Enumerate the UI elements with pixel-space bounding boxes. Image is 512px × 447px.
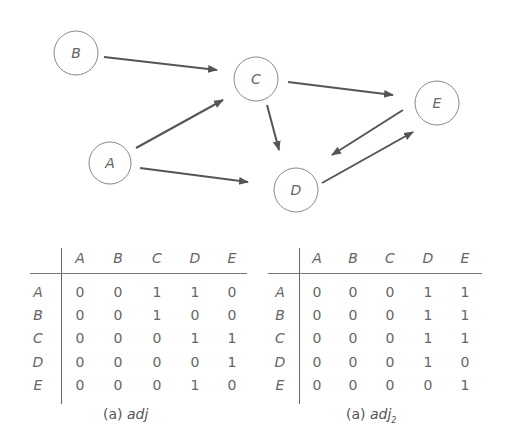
- node-d: D: [274, 168, 318, 212]
- node-label: A: [104, 155, 115, 171]
- row-header: B: [268, 306, 292, 324]
- row-header: C: [268, 329, 292, 347]
- matrix-cell: 0: [106, 376, 130, 394]
- row-header: D: [268, 353, 292, 371]
- matrix-vertical-divider: [299, 248, 300, 404]
- adjacency-matrix-adj: ABCDEA00110B00100C00011D00001E00010 (a) …: [0, 240, 256, 440]
- matrix-horizontal-divider: [30, 273, 247, 274]
- matrix-cell: 0: [220, 283, 244, 301]
- column-header: E: [220, 249, 244, 267]
- matrix-cell: 0: [341, 329, 365, 347]
- matrix-cell: 0: [341, 306, 365, 324]
- matrix-cell: 1: [220, 329, 244, 347]
- matrix-cell: 1: [416, 353, 440, 371]
- matrix-cell: 0: [305, 329, 329, 347]
- matrix-cell: 1: [145, 283, 169, 301]
- matrix-cell: 1: [416, 283, 440, 301]
- edge-b-to-c: [104, 57, 217, 70]
- matrix-cell: 0: [305, 376, 329, 394]
- matrix-cell: 0: [220, 376, 244, 394]
- matrix-cell: 0: [305, 353, 329, 371]
- caption-prefix: (a): [103, 406, 123, 422]
- matrix-cell: 0: [106, 306, 130, 324]
- node-e: E: [415, 81, 459, 125]
- caption-prefix: (a): [346, 406, 366, 422]
- matrix-cell: 0: [378, 376, 402, 394]
- adjacency-matrix-adj2: ABCDEA00011B00011C00011D00010E00001 (a) …: [256, 240, 512, 440]
- column-header: D: [416, 249, 440, 267]
- edge-a-to-c: [136, 100, 223, 148]
- matrix-cell: 0: [145, 329, 169, 347]
- column-header: D: [183, 249, 207, 267]
- matrix-cell: 1: [416, 329, 440, 347]
- matrix-cell: 1: [183, 329, 207, 347]
- matrix-cell: 0: [106, 283, 130, 301]
- matrix-cell: 0: [453, 353, 477, 371]
- node-a: A: [89, 142, 131, 184]
- matrix-cell: 0: [68, 353, 92, 371]
- matrix-cell: 1: [453, 376, 477, 394]
- row-header: A: [268, 283, 292, 301]
- matrix-cell: 1: [453, 329, 477, 347]
- matrix-cell: 1: [145, 306, 169, 324]
- node-label: E: [433, 95, 442, 111]
- row-header: D: [26, 353, 50, 371]
- matrix-cell: 0: [183, 306, 207, 324]
- row-header: C: [26, 329, 50, 347]
- matrix-cell: 1: [453, 283, 477, 301]
- matrix-cell: 0: [183, 353, 207, 371]
- caption-name: adj: [127, 406, 148, 422]
- row-header: E: [26, 376, 50, 394]
- matrix-cell: 1: [416, 306, 440, 324]
- node-label: D: [291, 182, 302, 198]
- matrix-cell: 0: [416, 376, 440, 394]
- matrix-cell: 1: [183, 376, 207, 394]
- matrix-cell: 0: [68, 376, 92, 394]
- row-header: A: [26, 283, 50, 301]
- matrix-cell: 0: [106, 353, 130, 371]
- matrix-cell: 0: [378, 353, 402, 371]
- edge-d-to-e: [322, 132, 413, 183]
- column-header: C: [145, 249, 169, 267]
- matrix-cell: 1: [183, 283, 207, 301]
- matrix-horizontal-divider: [268, 273, 482, 274]
- node-label: C: [251, 71, 261, 87]
- column-header: C: [378, 249, 402, 267]
- matrix-vertical-divider: [61, 248, 62, 404]
- matrix-cell: 0: [68, 283, 92, 301]
- caption-name: adj: [370, 406, 391, 422]
- node-c: C: [234, 57, 278, 101]
- matrix-cell: 0: [145, 376, 169, 394]
- matrix-cell: 0: [341, 353, 365, 371]
- matrix-cell: 0: [68, 329, 92, 347]
- matrix-cell: 0: [305, 306, 329, 324]
- column-header: B: [106, 249, 130, 267]
- row-header: E: [268, 376, 292, 394]
- matrix-cell: 0: [378, 283, 402, 301]
- edge-c-to-d: [267, 105, 279, 150]
- matrix-cell: 0: [378, 329, 402, 347]
- edge-a-to-d: [140, 168, 248, 182]
- column-header: E: [453, 249, 477, 267]
- matrix-cell: 1: [453, 306, 477, 324]
- matrix-cell: 0: [106, 329, 130, 347]
- matrix-cell: 0: [145, 353, 169, 371]
- matrix-caption: (a) adj: [103, 406, 148, 425]
- directed-graph: ABCDE: [0, 0, 512, 230]
- matrix-cell: 0: [220, 306, 244, 324]
- matrix-cell: 0: [378, 306, 402, 324]
- column-header: A: [68, 249, 92, 267]
- matrix-cell: 0: [341, 376, 365, 394]
- edge-c-to-e: [288, 82, 393, 95]
- edge-e-to-d: [332, 110, 403, 155]
- column-header: A: [305, 249, 329, 267]
- row-header: B: [26, 306, 50, 324]
- node-label: B: [71, 45, 81, 61]
- node-b: B: [54, 31, 98, 75]
- column-header: B: [341, 249, 365, 267]
- matrix-cell: 0: [341, 283, 365, 301]
- matrix-cell: 1: [220, 353, 244, 371]
- matrix-cell: 0: [305, 283, 329, 301]
- caption-subscript: 2: [391, 416, 396, 425]
- matrix-caption: (a) adj2: [346, 406, 396, 425]
